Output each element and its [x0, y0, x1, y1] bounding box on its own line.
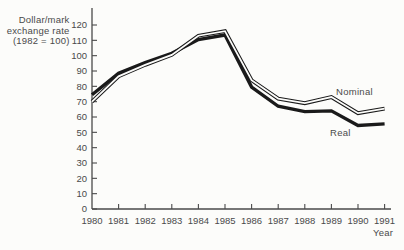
x-tick-label: 1985 — [214, 215, 235, 226]
nominal-line-outline — [92, 31, 385, 113]
y-axis-title-line: exchange rate — [7, 25, 70, 36]
y-tick-label: 20 — [76, 173, 87, 184]
y-tick-label: 80 — [76, 81, 87, 92]
y-tick-label: 100 — [71, 50, 87, 61]
y-tick-label: 120 — [71, 19, 87, 30]
series-label-real: Real — [330, 127, 351, 138]
y-tick-label: 110 — [72, 35, 87, 46]
y-tick-label: 30 — [76, 157, 87, 168]
x-tick-label: 1980 — [81, 215, 102, 226]
x-tick-label: 1989 — [321, 215, 342, 226]
y-tick-label: 60 — [76, 111, 87, 122]
y-tick-label: 50 — [76, 127, 87, 138]
y-tick-label: 40 — [76, 142, 87, 153]
x-axis-title: Year — [373, 227, 393, 238]
x-tick-label: 1990 — [347, 215, 368, 226]
exchange-rate-figure: 0102030405060708090100110120198019811982… — [0, 0, 404, 250]
x-tick-label: 1987 — [268, 215, 289, 226]
series-label-nominal: Nominal — [336, 86, 373, 97]
y-axis-title-line: (1982 = 100) — [13, 35, 70, 46]
real-line — [92, 35, 385, 125]
y-tick-label: 70 — [76, 96, 87, 107]
y-tick-label: 90 — [76, 65, 87, 76]
x-tick-label: 1988 — [294, 215, 315, 226]
x-tick-label: 1991 — [374, 215, 395, 226]
x-tick-label: 1983 — [161, 215, 182, 226]
x-tick-label: 1981 — [108, 215, 129, 226]
x-tick-label: 1986 — [241, 215, 262, 226]
x-tick-label: 1984 — [188, 215, 209, 226]
exchange-rate-chart-svg: 0102030405060708090100110120198019811982… — [0, 0, 404, 250]
y-axis-title-line: Dollar/mark — [19, 14, 70, 25]
y-tick-label: 0 — [82, 203, 87, 214]
y-tick-label: 10 — [76, 188, 87, 199]
x-tick-label: 1982 — [135, 215, 156, 226]
